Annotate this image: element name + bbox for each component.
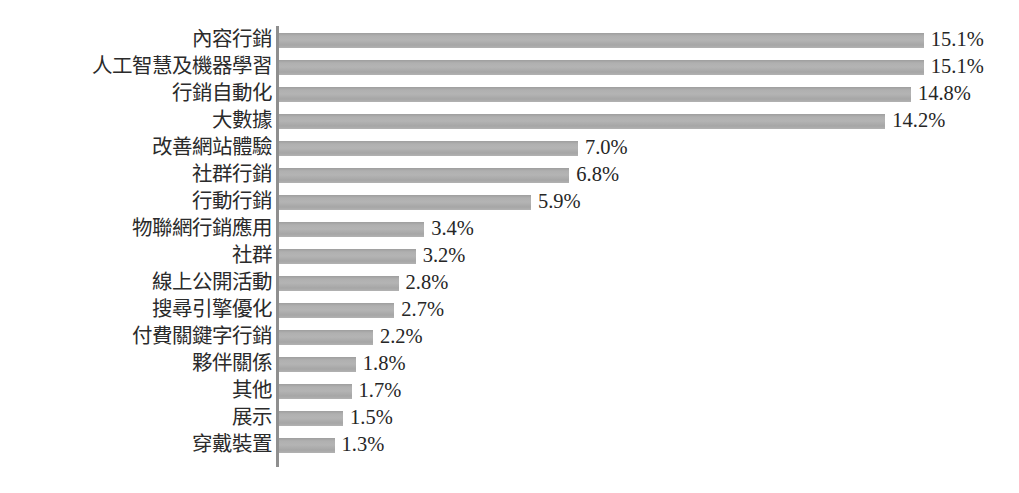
- bar-row: 夥伴關係1.8%: [0, 351, 1019, 378]
- bar[interactable]: [279, 384, 352, 399]
- bar-value-label: 2.2%: [380, 324, 423, 351]
- bar-value-label: 15.1%: [931, 54, 984, 81]
- category-label: 內容行銷: [0, 27, 272, 54]
- bar-value-label: 3.2%: [423, 243, 466, 270]
- bar-value-label: 1.7%: [359, 378, 402, 405]
- bar[interactable]: [279, 438, 335, 453]
- bar-row: 大數據14.2%: [0, 108, 1019, 135]
- bar[interactable]: [279, 60, 924, 75]
- category-label: 大數據: [0, 108, 272, 135]
- category-label: 社群行銷: [0, 162, 272, 189]
- bar-row: 改善網站體驗7.0%: [0, 135, 1019, 162]
- bar[interactable]: [279, 141, 578, 156]
- bar-value-label: 7.0%: [585, 135, 628, 162]
- bar[interactable]: [279, 357, 356, 372]
- category-label: 穿戴裝置: [0, 432, 272, 459]
- bar-row: 行動行銷5.9%: [0, 189, 1019, 216]
- bar[interactable]: [279, 195, 531, 210]
- bar-value-label: 1.3%: [342, 432, 385, 459]
- category-label: 社群: [0, 243, 272, 270]
- bar-value-label: 15.1%: [931, 27, 984, 54]
- category-label: 付費關鍵字行銷: [0, 324, 272, 351]
- bar-row: 穿戴裝置1.3%: [0, 432, 1019, 459]
- category-label: 線上公開活動: [0, 270, 272, 297]
- bar-row: 其他1.7%: [0, 378, 1019, 405]
- bar-row: 付費關鍵字行銷2.2%: [0, 324, 1019, 351]
- bar-value-label: 2.8%: [406, 270, 449, 297]
- bar-row: 人工智慧及機器學習15.1%: [0, 54, 1019, 81]
- horizontal-bar-chart: 內容行銷15.1%人工智慧及機器學習15.1%行銷自動化14.8%大數據14.2…: [0, 0, 1019, 493]
- bar-value-label: 2.7%: [401, 297, 444, 324]
- bar-value-label: 1.5%: [350, 405, 393, 432]
- bar-value-label: 5.9%: [538, 189, 581, 216]
- bar[interactable]: [279, 411, 343, 426]
- bar[interactable]: [279, 168, 569, 183]
- bar[interactable]: [279, 249, 416, 264]
- bar[interactable]: [279, 276, 399, 291]
- category-label: 夥伴關係: [0, 351, 272, 378]
- category-label: 物聯網行銷應用: [0, 216, 272, 243]
- bar-value-label: 14.8%: [918, 81, 971, 108]
- bar-value-label: 6.8%: [576, 162, 619, 189]
- bar-value-label: 14.2%: [892, 108, 945, 135]
- category-label: 行動行銷: [0, 189, 272, 216]
- category-label: 行銷自動化: [0, 81, 272, 108]
- bar[interactable]: [279, 87, 911, 102]
- bar-value-label: 1.8%: [363, 351, 406, 378]
- category-label: 人工智慧及機器學習: [0, 54, 272, 81]
- bar-row: 行銷自動化14.8%: [0, 81, 1019, 108]
- bar-row: 社群3.2%: [0, 243, 1019, 270]
- category-label: 搜尋引擎優化: [0, 297, 272, 324]
- bar[interactable]: [279, 330, 373, 345]
- category-label: 展示: [0, 405, 272, 432]
- bar-row: 社群行銷6.8%: [0, 162, 1019, 189]
- bar-row: 內容行銷15.1%: [0, 27, 1019, 54]
- bar[interactable]: [279, 114, 885, 129]
- bar-row: 線上公開活動2.8%: [0, 270, 1019, 297]
- bar-row: 物聯網行銷應用3.4%: [0, 216, 1019, 243]
- category-label: 改善網站體驗: [0, 135, 272, 162]
- bar[interactable]: [279, 222, 424, 237]
- bar[interactable]: [279, 303, 394, 318]
- bar[interactable]: [279, 33, 924, 48]
- bar-value-label: 3.4%: [431, 216, 474, 243]
- bar-row: 搜尋引擎優化2.7%: [0, 297, 1019, 324]
- bar-row: 展示1.5%: [0, 405, 1019, 432]
- category-label: 其他: [0, 378, 272, 405]
